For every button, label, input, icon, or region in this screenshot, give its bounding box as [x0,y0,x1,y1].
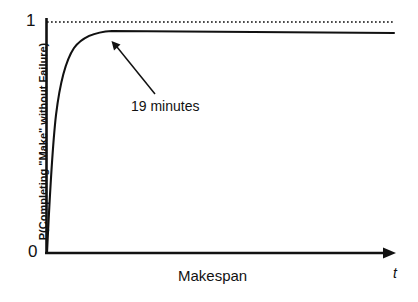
y-axis-tick-label-one: 1 [26,12,35,29]
annotation-arrow-line [117,47,155,94]
y-axis-tick-label-zero: 0 [28,243,37,260]
y-axis-title: P(Completing "Make" without Failure) [38,27,49,257]
saturation-curve-line [47,31,394,253]
chart-plot-area [0,0,418,302]
x-axis-arrow-icon [383,248,396,259]
annotation-label-19-minutes: 19 minutes [131,99,199,113]
x-axis-title: Makespan [178,268,247,283]
chart-figure: 1 0 P(Completing "Make" without Failure)… [0,0,418,302]
x-axis-variable-label: t [393,266,397,280]
